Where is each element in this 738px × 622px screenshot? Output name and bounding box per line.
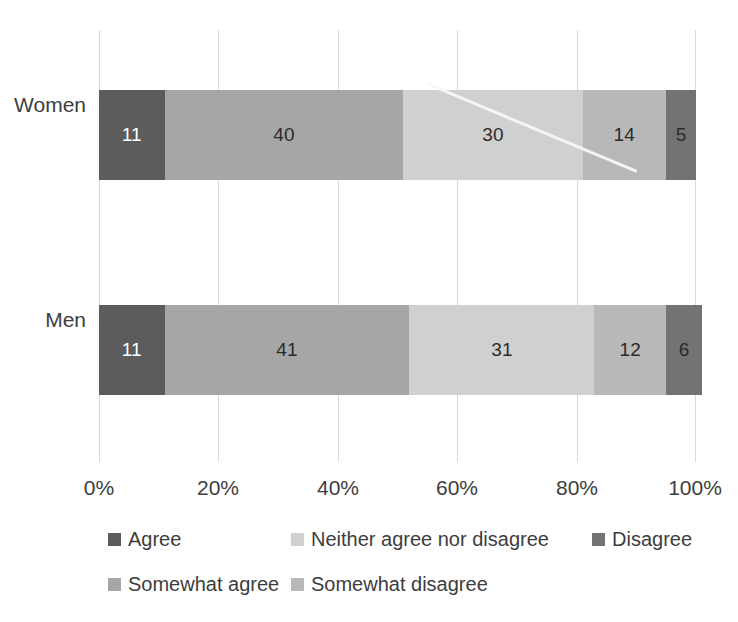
legend-item-agree[interactable]: Agree: [108, 528, 181, 551]
x-tick-20: 20%: [197, 476, 239, 500]
legend-swatch-somewhat-agree: [108, 578, 121, 591]
data-label: 5: [676, 124, 687, 146]
data-label: 11: [122, 339, 142, 361]
segment-women-somewhat-disagree: 14: [583, 90, 667, 180]
segment-men-somewhat-disagree: 12: [594, 305, 666, 395]
stacked-bar-chart: 11 40 30 14 5 11 41 31 12 6 0% 20% 40% 6…: [0, 0, 738, 622]
data-label: 6: [679, 339, 690, 361]
segment-women-somewhat-agree: 40: [165, 90, 404, 180]
segment-women-disagree: 5: [666, 90, 696, 180]
category-label-men: Men: [45, 308, 86, 332]
x-tick-100: 100%: [668, 476, 722, 500]
legend-swatch-disagree: [592, 533, 605, 546]
data-label: 41: [276, 339, 298, 361]
chart-legend: Agree Neither agree nor disagree Disagre…: [0, 520, 738, 610]
data-label: 14: [614, 124, 636, 146]
legend-swatch-agree: [108, 533, 121, 546]
segment-men-somewhat-agree: 41: [165, 305, 410, 395]
segment-women-agree: 11: [99, 90, 165, 180]
x-tick-40: 40%: [317, 476, 359, 500]
plot-area: 11 40 30 14 5 11 41 31 12 6 0% 20% 40% 6…: [99, 30, 696, 462]
legend-label: Neither agree nor disagree: [311, 528, 549, 551]
legend-item-somewhat-disagree[interactable]: Somewhat disagree: [291, 573, 488, 596]
segment-men-neither: 31: [409, 305, 594, 395]
data-label: 40: [273, 124, 295, 146]
segment-men-disagree: 6: [666, 305, 702, 395]
segment-men-agree: 11: [99, 305, 165, 395]
legend-swatch-neither: [291, 533, 304, 546]
legend-label: Agree: [128, 528, 181, 551]
legend-item-neither[interactable]: Neither agree nor disagree: [291, 528, 549, 551]
legend-item-somewhat-agree[interactable]: Somewhat agree: [108, 573, 279, 596]
x-axis-ticks: 0% 20% 40% 60% 80% 100%: [99, 476, 696, 506]
data-label: 12: [620, 339, 642, 361]
legend-label: Disagree: [612, 528, 692, 551]
category-label-women: Women: [14, 93, 86, 117]
data-label: 31: [491, 339, 513, 361]
segment-women-neither: 30: [403, 90, 582, 180]
legend-label: Somewhat agree: [128, 573, 279, 596]
legend-label: Somewhat disagree: [311, 573, 488, 596]
data-label: 11: [122, 124, 142, 146]
x-tick-80: 80%: [556, 476, 598, 500]
bar-women: 11 40 30 14 5: [99, 90, 696, 180]
data-label: 30: [482, 124, 504, 146]
legend-swatch-somewhat-disagree: [291, 578, 304, 591]
x-tick-60: 60%: [436, 476, 478, 500]
bar-men: 11 41 31 12 6: [99, 305, 702, 395]
x-tick-0: 0%: [84, 476, 114, 500]
legend-item-disagree[interactable]: Disagree: [592, 528, 692, 551]
